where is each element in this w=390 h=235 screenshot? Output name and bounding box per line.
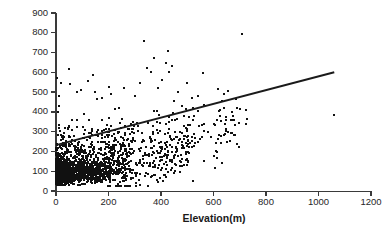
scatter-point xyxy=(230,119,232,121)
scatter-point xyxy=(123,139,125,141)
scatter-point xyxy=(118,172,120,174)
scatter-point xyxy=(124,134,126,136)
scatter-point xyxy=(163,174,165,176)
scatter-point xyxy=(153,152,155,154)
scatter-point xyxy=(110,125,112,127)
scatter-point xyxy=(123,87,125,89)
scatter-point xyxy=(86,159,88,161)
scatter-point xyxy=(117,152,119,154)
scatter-point xyxy=(76,126,78,128)
scatter-point xyxy=(96,166,98,168)
scatter-point xyxy=(135,185,137,187)
y-tick-label: 200 xyxy=(0,145,48,156)
scatter-point xyxy=(93,148,95,150)
scatter-point xyxy=(233,119,235,121)
scatter-point xyxy=(56,149,58,151)
scatter-point xyxy=(78,184,80,186)
scatter-point xyxy=(140,147,142,149)
scatter-point xyxy=(226,141,228,143)
scatter-point xyxy=(65,178,67,180)
scatter-point xyxy=(183,138,185,140)
scatter-point xyxy=(95,163,97,165)
scatter-point xyxy=(111,135,113,137)
scatter-point xyxy=(63,155,65,157)
scatter-point xyxy=(172,112,174,114)
scatter-point xyxy=(78,171,80,173)
scatter-point xyxy=(74,155,76,157)
scatter-point xyxy=(84,183,86,185)
scatter-point xyxy=(114,129,116,131)
scatter-point xyxy=(69,160,71,162)
scatter-point xyxy=(153,110,155,112)
y-tick xyxy=(51,12,56,13)
scatter-point xyxy=(142,158,144,160)
scatter-point xyxy=(110,166,112,168)
scatter-point xyxy=(115,173,117,175)
scatter-point xyxy=(203,160,205,162)
scatter-point xyxy=(129,148,131,150)
scatter-point xyxy=(174,154,176,156)
scatter-point xyxy=(238,122,240,124)
scatter-point xyxy=(168,71,170,73)
scatter-point xyxy=(101,119,103,121)
scatter-point xyxy=(225,116,227,118)
scatter-point xyxy=(107,165,109,167)
scatter-point xyxy=(218,134,220,136)
scatter-point xyxy=(63,143,65,145)
scatter-point xyxy=(161,79,163,81)
x-tick xyxy=(108,191,109,196)
scatter-point xyxy=(165,168,167,170)
scatter-point xyxy=(92,161,94,163)
y-tick-label: 600 xyxy=(0,66,48,77)
scatter-point xyxy=(223,107,225,109)
scatter-point xyxy=(100,169,102,171)
scatter-point xyxy=(238,146,240,148)
scatter-point xyxy=(159,177,161,179)
scatter-point xyxy=(174,131,176,133)
scatter-point xyxy=(188,116,190,118)
scatter-point xyxy=(68,180,70,182)
scatter-point xyxy=(231,111,233,113)
scatter-point xyxy=(66,170,68,172)
scatter-point xyxy=(66,148,68,150)
scatter-point xyxy=(83,113,85,115)
scatter-point xyxy=(120,168,122,170)
scatter-point xyxy=(181,165,183,167)
x-tick xyxy=(160,191,161,196)
scatter-point xyxy=(88,153,90,155)
scatter-point xyxy=(119,122,121,124)
y-tick-label: 800 xyxy=(0,26,48,37)
scatter-point xyxy=(187,160,189,162)
scatter-point xyxy=(139,150,141,152)
scatter-point xyxy=(220,142,222,144)
scatter-point xyxy=(130,153,132,155)
scatter-point xyxy=(167,50,169,52)
scatter-point xyxy=(147,185,149,187)
scatter-point xyxy=(83,137,85,139)
scatter-point xyxy=(107,146,109,148)
scatter-point xyxy=(180,154,182,156)
scatter-point xyxy=(111,152,113,154)
scatter-point xyxy=(113,148,115,150)
scatter-point xyxy=(100,180,102,182)
x-tick-label: 1200 xyxy=(351,196,390,207)
scatter-point xyxy=(60,182,62,184)
scatter-point xyxy=(221,162,223,164)
scatter-point xyxy=(74,179,76,181)
scatter-point xyxy=(210,136,212,138)
scatter-point xyxy=(176,150,178,152)
scatter-point xyxy=(90,156,92,158)
scatter-point xyxy=(95,179,97,181)
scatter-point xyxy=(93,158,95,160)
scatter-point xyxy=(118,165,120,167)
scatter-point xyxy=(84,129,86,131)
scatter-point xyxy=(102,177,104,179)
scatter-point xyxy=(170,169,172,171)
scatter-point xyxy=(95,156,97,158)
y-tick-label: 300 xyxy=(0,125,48,136)
scatter-point xyxy=(125,179,127,181)
scatter-point xyxy=(114,137,116,139)
scatter-point xyxy=(153,57,155,59)
scatter-point xyxy=(105,161,107,163)
scatter-point xyxy=(241,33,243,35)
